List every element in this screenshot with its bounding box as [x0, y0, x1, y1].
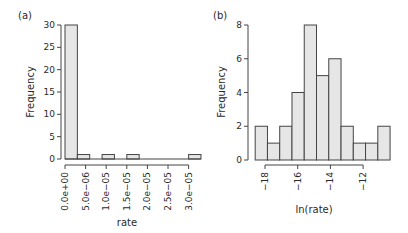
panel-b-y-axis-title: Frequency: [216, 66, 227, 118]
histogram-bar: [292, 93, 304, 161]
histogram-bar: [353, 143, 365, 160]
y-tick-label: 6: [236, 54, 242, 64]
histogram-bar: [341, 126, 353, 160]
panel-b-bars: [255, 25, 390, 160]
y-tick-label: 4: [236, 88, 242, 98]
histogram-bar: [127, 155, 139, 159]
histogram-bar: [255, 126, 267, 160]
y-tick-label: 2: [236, 121, 242, 131]
panel-a-x-axis-title: rate: [117, 217, 137, 228]
histogram-bar: [317, 76, 329, 160]
panel-a-bars: [65, 25, 201, 159]
panel-a-label: (a): [18, 10, 32, 21]
histogram-bar: [366, 143, 378, 160]
panel-b-y-axis: 02468: [236, 20, 248, 165]
panel-a-rate-histogram: (a) 051015202530 0.0e+005.0e−061.0e−051.…: [18, 10, 201, 228]
x-tick-label: −16: [293, 172, 303, 191]
x-tick-label: 2.0e−05: [142, 172, 152, 211]
x-tick-label: −12: [358, 172, 368, 191]
panel-b-x-axis: −18−16−14−12: [260, 165, 368, 191]
y-tick-label: 25: [44, 42, 55, 52]
histogram-figure: (a) 051015202530 0.0e+005.0e−061.0e−051.…: [0, 0, 408, 233]
histogram-bar: [378, 126, 390, 160]
y-tick-label: 8: [236, 20, 242, 30]
x-tick-label: −14: [325, 172, 335, 191]
histogram-bar: [304, 25, 316, 160]
panel-b-lnrate-histogram: (b) 02468 −18−16−14−12 Frequency ln(rate…: [213, 10, 390, 215]
y-tick-label: 10: [44, 109, 56, 119]
y-tick-label: 20: [44, 65, 56, 75]
x-tick-label: 3.0e−05: [184, 172, 194, 211]
x-tick-label: 1.5e−05: [122, 172, 132, 211]
histogram-bar: [102, 155, 114, 159]
histogram-bar: [329, 59, 341, 160]
panel-b-label: (b): [213, 10, 227, 21]
y-tick-label: 30: [44, 20, 56, 30]
x-tick-label: 5.0e−06: [81, 172, 91, 211]
y-tick-label: 0: [49, 154, 55, 164]
histogram-bar: [77, 155, 89, 159]
y-tick-label: 0: [236, 155, 242, 165]
panel-b-x-axis-title: ln(rate): [295, 204, 332, 215]
y-tick-label: 5: [49, 132, 55, 142]
x-tick-label: 1.0e−05: [101, 172, 111, 211]
x-tick-label: 0.0e+00: [60, 172, 70, 211]
histogram-bar: [189, 155, 201, 159]
histogram-bar: [280, 126, 292, 160]
x-tick-label: −18: [260, 172, 270, 191]
histogram-bar: [65, 25, 77, 159]
histogram-bar: [267, 143, 279, 160]
x-tick-label: 2.5e−05: [163, 172, 173, 211]
panel-a-y-axis-title: Frequency: [25, 66, 36, 118]
panel-a-y-axis: 051015202530: [44, 20, 61, 164]
y-tick-label: 15: [44, 87, 55, 97]
panel-a-x-axis: 0.0e+005.0e−061.0e−051.5e−052.0e−052.5e−…: [60, 165, 194, 211]
